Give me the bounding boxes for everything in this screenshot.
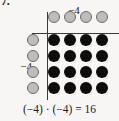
column-header-dots-dot — [80, 11, 92, 23]
product-dots-dot — [80, 50, 92, 62]
column-header-dots-dot — [48, 11, 60, 23]
column-header-dots-dot — [64, 11, 76, 23]
equation-caption: (−4) · (−4) = 16 — [0, 103, 119, 116]
product-dots-dot — [96, 66, 108, 78]
problem-number: 7. — [1, 0, 9, 7]
product-dots-dot — [64, 66, 76, 78]
horizontal-axis-line — [32, 33, 119, 34]
product-dots-dot — [64, 50, 76, 62]
product-dots-dot — [48, 66, 60, 78]
row-header-dots-dot — [27, 66, 39, 78]
product-dots-dot — [64, 34, 76, 46]
product-dots-dot — [96, 34, 108, 46]
product-dots-dot — [80, 82, 92, 94]
column-header-dots-dot — [96, 11, 108, 23]
product-dots-dot — [48, 82, 60, 94]
product-dots-dot — [48, 50, 60, 62]
product-dots-dot — [48, 34, 60, 46]
multiplication-array-figure: 7. −4 −4 (−4) · (−4) = 16 — [0, 0, 119, 121]
row-header-dots-dot — [27, 34, 39, 46]
product-dots-dot — [80, 34, 92, 46]
product-dots-dot — [96, 82, 108, 94]
row-header-dots-dot — [27, 50, 39, 62]
product-dots-dot — [80, 66, 92, 78]
product-dots-dot — [64, 82, 76, 94]
row-header-dots-dot — [27, 82, 39, 94]
product-dots-dot — [96, 50, 108, 62]
